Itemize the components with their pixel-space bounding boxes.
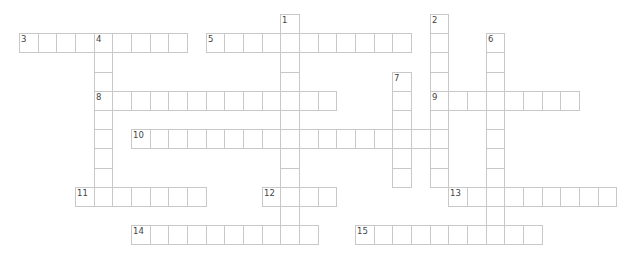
crossword-cell[interactable] xyxy=(523,91,543,111)
crossword-cell[interactable] xyxy=(430,110,449,130)
crossword-cell[interactable] xyxy=(542,187,561,207)
crossword-cell[interactable] xyxy=(94,52,113,73)
crossword-cell[interactable] xyxy=(262,91,281,111)
crossword-cell[interactable] xyxy=(38,33,57,53)
crossword-cell[interactable]: 9 xyxy=(430,91,449,111)
crossword-cell[interactable] xyxy=(392,148,412,169)
crossword-cell[interactable] xyxy=(224,91,244,111)
crossword-cell[interactable] xyxy=(392,225,412,245)
crossword-cell[interactable] xyxy=(486,148,505,169)
crossword-cell[interactable] xyxy=(187,225,207,245)
crossword-cell[interactable] xyxy=(430,148,449,169)
crossword-cell[interactable] xyxy=(280,225,300,245)
crossword-cell[interactable] xyxy=(318,129,337,149)
crossword-cell[interactable] xyxy=(280,33,300,53)
crossword-cell[interactable] xyxy=(131,33,151,53)
crossword-cell[interactable] xyxy=(374,129,393,149)
crossword-cell[interactable] xyxy=(486,52,505,73)
crossword-cell[interactable] xyxy=(94,110,113,130)
crossword-cell[interactable] xyxy=(486,72,505,92)
crossword-cell[interactable] xyxy=(280,187,300,207)
crossword-cell[interactable] xyxy=(299,187,319,207)
crossword-cell[interactable] xyxy=(224,33,244,53)
crossword-cell[interactable] xyxy=(430,72,449,92)
crossword-cell[interactable] xyxy=(150,129,169,149)
crossword-cell[interactable] xyxy=(168,187,188,207)
crossword-cell[interactable] xyxy=(598,187,617,207)
crossword-cell[interactable] xyxy=(486,225,505,245)
crossword-cell[interactable]: 11 xyxy=(75,187,95,207)
crossword-cell[interactable]: 12 xyxy=(262,187,281,207)
crossword-cell[interactable] xyxy=(131,91,151,111)
crossword-cell[interactable] xyxy=(243,129,263,149)
crossword-cell[interactable] xyxy=(392,110,412,130)
crossword-cell[interactable] xyxy=(224,225,244,245)
crossword-cell[interactable]: 4 xyxy=(94,33,113,53)
crossword-cell[interactable]: 8 xyxy=(94,91,113,111)
crossword-cell[interactable] xyxy=(262,225,281,245)
crossword-cell[interactable]: 7 xyxy=(392,72,412,92)
crossword-cell[interactable] xyxy=(560,187,580,207)
crossword-cell[interactable] xyxy=(280,168,300,188)
crossword-cell[interactable] xyxy=(280,110,300,130)
crossword-cell[interactable] xyxy=(299,129,319,149)
crossword-cell[interactable] xyxy=(150,225,169,245)
crossword-cell[interactable] xyxy=(299,91,319,111)
crossword-cell[interactable]: 15 xyxy=(355,225,375,245)
crossword-cell[interactable] xyxy=(486,129,505,149)
crossword-cell[interactable] xyxy=(430,168,449,188)
crossword-cell[interactable] xyxy=(243,225,263,245)
crossword-cell[interactable] xyxy=(150,91,169,111)
crossword-cell[interactable] xyxy=(448,225,468,245)
crossword-cell[interactable] xyxy=(430,129,449,149)
crossword-cell[interactable] xyxy=(243,33,263,53)
crossword-cell[interactable] xyxy=(94,148,113,169)
crossword-cell[interactable] xyxy=(299,33,319,53)
crossword-cell[interactable] xyxy=(523,225,543,245)
crossword-cell[interactable] xyxy=(392,129,412,149)
crossword-cell[interactable] xyxy=(336,33,356,53)
crossword-cell[interactable] xyxy=(56,33,76,53)
crossword-cell[interactable] xyxy=(299,225,319,245)
crossword-cell[interactable]: 2 xyxy=(430,14,449,34)
crossword-cell[interactable] xyxy=(486,187,505,207)
crossword-cell[interactable] xyxy=(448,91,468,111)
crossword-cell[interactable] xyxy=(280,148,300,169)
crossword-cell[interactable]: 5 xyxy=(206,33,225,53)
crossword-cell[interactable] xyxy=(336,129,356,149)
crossword-cell[interactable] xyxy=(206,225,225,245)
crossword-cell[interactable] xyxy=(374,33,393,53)
crossword-cell[interactable] xyxy=(560,91,580,111)
crossword-cell[interactable] xyxy=(411,225,431,245)
crossword-cell[interactable] xyxy=(112,91,132,111)
crossword-cell[interactable] xyxy=(355,129,375,149)
crossword-cell[interactable] xyxy=(430,225,449,245)
crossword-cell[interactable] xyxy=(168,129,188,149)
crossword-cell[interactable] xyxy=(75,33,95,53)
crossword-cell[interactable] xyxy=(187,129,207,149)
crossword-cell[interactable] xyxy=(262,129,281,149)
crossword-cell[interactable]: 3 xyxy=(19,33,39,53)
crossword-cell[interactable] xyxy=(94,72,113,92)
crossword-cell[interactable] xyxy=(168,33,188,53)
crossword-cell[interactable] xyxy=(318,187,337,207)
crossword-cell[interactable] xyxy=(318,33,337,53)
crossword-cell[interactable]: 6 xyxy=(486,33,505,53)
crossword-cell[interactable]: 14 xyxy=(131,225,151,245)
crossword-cell[interactable] xyxy=(262,33,281,53)
crossword-cell[interactable] xyxy=(280,129,300,149)
crossword-cell[interactable] xyxy=(318,91,337,111)
crossword-cell[interactable]: 13 xyxy=(448,187,468,207)
crossword-cell[interactable] xyxy=(187,187,207,207)
crossword-cell[interactable] xyxy=(486,168,505,188)
crossword-cell[interactable] xyxy=(374,225,393,245)
crossword-cell[interactable] xyxy=(150,33,169,53)
crossword-cell[interactable] xyxy=(355,33,375,53)
crossword-cell[interactable] xyxy=(168,225,188,245)
crossword-cell[interactable] xyxy=(243,91,263,111)
crossword-cell[interactable] xyxy=(94,168,113,188)
crossword-cell[interactable] xyxy=(94,129,113,149)
crossword-cell[interactable] xyxy=(112,187,132,207)
crossword-cell[interactable] xyxy=(486,110,505,130)
crossword-cell[interactable] xyxy=(392,91,412,111)
